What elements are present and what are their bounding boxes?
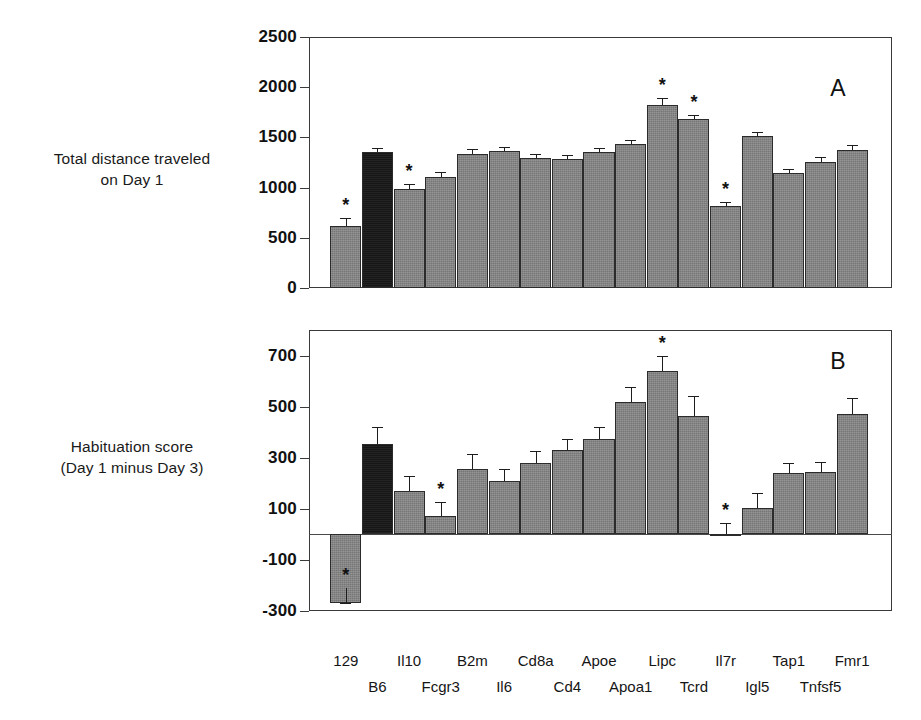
bar-cd4 <box>552 450 583 534</box>
bar-b6 <box>362 152 393 288</box>
error-bar-apoa1 <box>631 387 632 401</box>
panel-a-y-tick-label: 1500 <box>258 127 297 147</box>
bar-fcgr3 <box>425 177 456 288</box>
error-bar-cap-il6 <box>499 469 510 470</box>
bar-tnfsf5 <box>805 162 836 288</box>
error-bar-cap-tap1 <box>783 463 794 464</box>
error-bar-cap-il7r <box>720 523 731 524</box>
error-bar-cap-lipc <box>657 356 668 357</box>
panel-a-y-tick <box>300 288 309 289</box>
x-axis-label-lipc: Lipc <box>649 652 677 669</box>
panel-b-y-tick <box>300 611 309 612</box>
error-bar-cap-lipc <box>657 98 668 99</box>
x-axis-label-tcrd: Tcrd <box>680 678 708 695</box>
x-axis-label-apoe: Apoe <box>581 652 616 669</box>
panel-a-y-tick-label: 0 <box>287 278 297 298</box>
bar-apoe <box>583 152 614 288</box>
error-bar-lipc <box>662 98 663 106</box>
panel-b-y-tick <box>300 407 309 408</box>
panel-b-axis-caption-line1: Habituation score <box>8 436 256 457</box>
x-axis-labels-row-2: B6Fcgr3Il6Cd4Apoa1TcrdIgl5Tnfsf5 <box>309 678 892 700</box>
error-bar-cap-il10 <box>404 476 415 477</box>
x-axis-label-il10: Il10 <box>397 652 421 669</box>
x-axis-label-fmr1: Fmr1 <box>835 652 870 669</box>
panel-a-y-tick <box>300 37 309 38</box>
x-axis-label-tap1: Tap1 <box>773 652 806 669</box>
bar-129 <box>330 226 361 288</box>
bar-tap1 <box>773 473 804 534</box>
bar-fmr1 <box>837 414 868 534</box>
significance-star-il7r: * <box>722 180 729 198</box>
error-bar-cap-tcrd <box>688 396 699 397</box>
x-axis-label-fcgr3: Fcgr3 <box>422 678 460 695</box>
panel-b-y-tick <box>300 356 309 357</box>
bar-tcrd <box>678 416 709 535</box>
x-axis-label-cd8a: Cd8a <box>518 652 554 669</box>
panel-a-y-tick-label: 1000 <box>258 178 297 198</box>
error-bar-cap-igl5 <box>752 132 763 133</box>
bar-b2m <box>457 469 488 534</box>
error-bar-cap-b2m <box>467 149 478 150</box>
panel-a-letter: A <box>830 75 846 102</box>
error-bar-cap-apoa1 <box>625 140 636 141</box>
error-bar-tnfsf5 <box>821 462 822 472</box>
panel-b-y-tick <box>300 560 309 561</box>
error-bar-cap-fcgr3 <box>435 172 446 173</box>
panel-b-y-tick-label: -100 <box>262 550 297 570</box>
x-axis-label-il7r: Il7r <box>715 652 736 669</box>
bar-b2m <box>457 154 488 288</box>
bar-fcgr3 <box>425 516 456 534</box>
bar-tnfsf5 <box>805 472 836 535</box>
error-bar-cap-il6 <box>499 147 510 148</box>
x-axis-label-129: 129 <box>333 652 358 669</box>
significance-star-129: * <box>342 196 349 214</box>
error-bar-129 <box>346 588 347 603</box>
error-bar-fcgr3 <box>441 502 442 516</box>
error-bar-cap-129 <box>340 603 351 604</box>
significance-star-129: * <box>342 566 349 584</box>
error-bar-cap-b6 <box>372 427 383 428</box>
panel-a-y-tick <box>300 238 309 239</box>
error-bar-cap-fcgr3 <box>435 502 446 503</box>
panel-b-y-tick-label: 100 <box>268 499 297 519</box>
bar-il7r <box>710 206 741 288</box>
panel-b-bar-group: -300-100100300500700**** <box>309 330 892 611</box>
error-bar-b2m <box>472 454 473 469</box>
panel-b-y-tick-label: 300 <box>268 448 297 468</box>
panel-b-y-tick-label: 700 <box>268 346 297 366</box>
panel-a-axis-caption-line2: on Day 1 <box>8 169 256 190</box>
panel-b-letter: B <box>830 348 846 375</box>
bar-il6 <box>489 481 520 535</box>
error-bar-cap-129 <box>340 218 351 219</box>
error-bar-cap-tap1 <box>783 169 794 170</box>
bar-fmr1 <box>837 150 868 288</box>
error-bar-fmr1 <box>852 398 853 415</box>
significance-star-il10: * <box>406 162 413 180</box>
bar-cd8a <box>520 463 551 535</box>
error-bar-tap1 <box>789 463 790 473</box>
x-axis-label-apoa1: Apoa1 <box>609 678 652 695</box>
panel-b-y-tick-label: 500 <box>268 397 297 417</box>
error-bar-cap-tnfsf5 <box>815 157 826 158</box>
error-bar-cap-b6 <box>372 148 383 149</box>
panel-b-axis-caption: Habituation score (Day 1 minus Day 3) <box>8 436 256 478</box>
error-bar-cap-fmr1 <box>847 398 858 399</box>
error-bar-cap-apoa1 <box>625 387 636 388</box>
panel-a-axis-caption: Total distance traveled on Day 1 <box>8 148 256 190</box>
x-axis-label-tnfsf5: Tnfsf5 <box>800 678 842 695</box>
error-bar-cap-il10 <box>404 184 415 185</box>
panel-a-y-tick <box>300 87 309 88</box>
error-bar-lipc <box>662 356 663 371</box>
bar-il10 <box>394 491 425 534</box>
error-bar-cap-cd4 <box>562 155 573 156</box>
error-bar-cap-fmr1 <box>847 145 858 146</box>
bar-il7r <box>710 534 741 536</box>
bar-igl5 <box>742 136 773 288</box>
bar-tcrd <box>678 119 709 288</box>
x-axis-labels-row-1: 129Il10B2mCd8aApoeLipcIl7rTap1Fmr1 <box>309 652 892 674</box>
error-bar-cd8a <box>536 451 537 462</box>
panel-a-y-tick <box>300 188 309 189</box>
figure-canvas: Total distance traveled on Day 1 Habitua… <box>0 0 921 720</box>
panel-a-y-tick-label: 2000 <box>258 77 297 97</box>
panel-b-chart: -300-100100300500700**** B <box>309 330 892 611</box>
